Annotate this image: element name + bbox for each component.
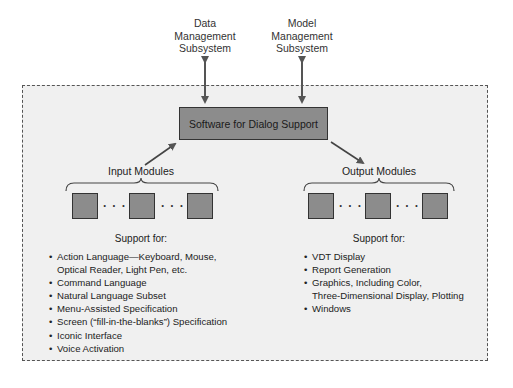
input-support-list: •Action Language—Keyboard, Mouse, Optica… [49,250,227,355]
bullet-icon: • [49,289,52,302]
item-text: Iconic Interface [57,330,122,341]
item-text: Three-Dimensional Display, Plotting [312,290,464,301]
input-modules-title: Input Modules [91,165,191,177]
item-text: Graphics, Including Color, [312,277,422,288]
item-text: Menu-Assisted Specification [57,303,178,314]
output-module-box [308,193,334,219]
bullet-icon: • [304,250,307,263]
item-text: Voice Activation [57,343,124,354]
item-text: VDT Display [312,251,365,262]
item-text: Natural Language Subset [57,290,166,301]
bullet-icon: • [304,276,307,289]
list-item: Optical Reader, Light Pen, etc. [49,263,227,276]
list-item: •Natural Language Subset [49,289,227,302]
list-item: •Command Language [49,276,227,289]
output-modules-title: Output Modules [329,165,429,177]
bullet-icon: • [304,263,307,276]
input-module-box [72,193,98,219]
ellipsis: · · · [103,199,127,213]
list-item: •Report Generation [304,263,464,276]
bullet-icon: • [49,342,52,355]
list-item: •Menu-Assisted Specification [49,302,227,315]
ellipsis: · · · [396,199,420,213]
input-brace [66,178,218,191]
bullet-icon: • [304,302,307,315]
input-module-box [187,193,213,219]
central-to-output-arrow [331,142,363,163]
ellipsis: · · · [339,199,363,213]
list-item: •Windows [304,302,464,315]
bullet-icon: • [49,329,52,342]
list-item: Three-Dimensional Display, Plotting [304,289,464,302]
item-text: Screen (“fill-in-the-blanks”) Specificat… [57,316,227,327]
ellipsis: · · · [161,199,185,213]
bullet-icon: • [49,315,52,328]
item-text: Action Language—Keyboard, Mouse, [57,251,216,262]
item-text: Optical Reader, Light Pen, etc. [57,264,187,275]
list-item: •Screen (“fill-in-the-blanks”) Specifica… [49,315,227,328]
output-support-list: •VDT Display •Report Generation •Graphic… [304,250,464,315]
input-support-title: Support for: [91,233,191,244]
item-text: Windows [312,303,351,314]
input-to-central-arrow [145,144,175,165]
list-item: •Action Language—Keyboard, Mouse, [49,250,227,263]
list-item: •Iconic Interface [49,329,227,342]
output-support-title: Support for: [329,233,429,244]
input-module-box [129,193,155,219]
bullet-icon: • [49,302,52,315]
item-text: Report Generation [312,264,391,275]
list-item: •VDT Display [304,250,464,263]
list-item: •Graphics, Including Color, [304,276,464,289]
bullet-icon: • [49,250,52,263]
bullet-icon: • [49,276,52,289]
item-text: Command Language [57,277,147,288]
output-brace [304,178,454,191]
output-module-box [365,193,391,219]
output-module-box [422,193,448,219]
list-item: •Voice Activation [49,342,227,355]
